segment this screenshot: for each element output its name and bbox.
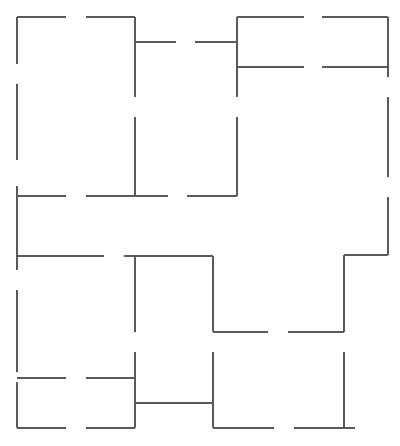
walls-group [17,17,388,428]
floor-plan-diagram [0,0,400,446]
